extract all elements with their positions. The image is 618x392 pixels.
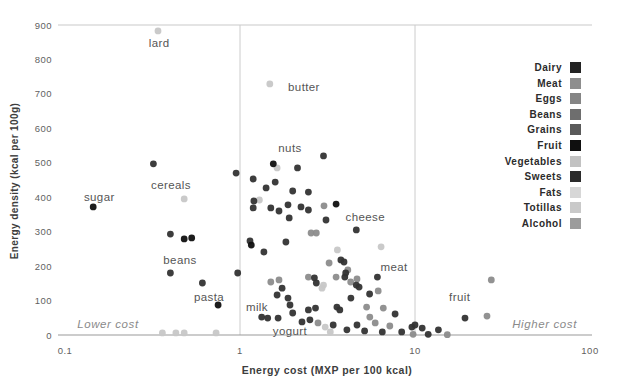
- data-point: [283, 239, 290, 246]
- data-point: [285, 201, 292, 208]
- data-point: [484, 313, 491, 320]
- data-point: [275, 315, 282, 322]
- legend-item-fats: Fats: [505, 187, 581, 198]
- data-point: [305, 274, 312, 281]
- legend-swatch: [570, 187, 581, 198]
- legend-swatch: [570, 78, 581, 89]
- data-point: [305, 307, 312, 314]
- legend-item-totillas: Totillas: [505, 202, 581, 213]
- data-point: [333, 201, 340, 208]
- legend-label: Grains: [527, 124, 562, 135]
- point-annotation: meat: [381, 261, 409, 273]
- data-point: [313, 230, 320, 237]
- point-annotation: yogurt: [273, 325, 308, 337]
- y-tick-label: 900: [35, 20, 52, 31]
- legend-item-eggs: Eggs: [505, 93, 581, 104]
- data-point: [285, 295, 292, 302]
- legend-item-grains: Grains: [505, 124, 581, 135]
- legend-label: Meat: [537, 78, 562, 89]
- data-point: [305, 189, 312, 196]
- legend-swatch: [570, 218, 581, 229]
- point-annotation: cereals: [151, 179, 191, 191]
- data-point: [213, 330, 220, 337]
- legend-item-vegetables: Vegetables: [505, 156, 581, 167]
- y-tick-label: 100: [35, 295, 52, 306]
- data-point: [348, 295, 355, 302]
- data-point: [267, 205, 274, 212]
- legend-swatch: [570, 93, 581, 104]
- data-point: [199, 280, 206, 287]
- y-tick-label: 0: [46, 330, 52, 341]
- data-point: [356, 284, 363, 291]
- data-point: [375, 288, 382, 295]
- point-annotation: butter: [288, 81, 320, 93]
- data-point: [374, 274, 381, 281]
- legend-item-dairy: Dairy: [505, 62, 581, 73]
- legend-swatch: [570, 171, 581, 182]
- data-point: [330, 322, 337, 329]
- data-point: [234, 270, 241, 277]
- zone-label: Higher cost: [512, 318, 577, 330]
- y-tick-label: 400: [35, 192, 52, 203]
- legend-swatch: [570, 62, 581, 73]
- y-tick-label: 200: [35, 261, 52, 272]
- point-annotation: pasta: [194, 291, 224, 303]
- data-point: [425, 331, 432, 338]
- data-point: [181, 236, 188, 243]
- data-point: [311, 274, 318, 281]
- data-point: [261, 249, 268, 256]
- data-point: [378, 243, 385, 250]
- data-point: [444, 331, 451, 338]
- point-annotation: cheese: [346, 211, 385, 223]
- legend-swatch: [570, 109, 581, 120]
- y-tick-label: 500: [35, 157, 52, 168]
- legend-label: Beans: [529, 109, 562, 120]
- data-point: [380, 305, 387, 312]
- legend-label: Totillas: [524, 202, 562, 213]
- data-point: [263, 185, 270, 192]
- data-point: [366, 314, 373, 321]
- legend-label: Dairy: [534, 62, 562, 73]
- legend: Dairy Meat Eggs Beans Grains Fruit Veget…: [505, 62, 581, 234]
- point-annotation: milk: [246, 301, 268, 313]
- data-point: [289, 310, 296, 317]
- zone-label: Lower cost: [77, 318, 139, 330]
- x-axis-title: Energy cost (MXP per 100 kcal): [242, 364, 413, 376]
- data-point: [320, 153, 327, 160]
- data-point: [289, 188, 296, 195]
- legend-label: Eggs: [536, 93, 562, 104]
- data-point: [323, 217, 330, 224]
- data-point: [386, 323, 393, 330]
- data-point: [305, 207, 312, 214]
- x-tick-label: 10: [409, 345, 421, 356]
- data-point: [372, 320, 379, 327]
- data-point: [353, 227, 360, 234]
- data-point: [267, 279, 274, 286]
- data-point: [341, 274, 348, 281]
- data-point: [361, 328, 368, 335]
- data-point: [248, 242, 255, 249]
- data-point: [327, 329, 334, 336]
- data-point: [250, 205, 257, 212]
- data-point: [181, 196, 188, 203]
- data-point: [298, 204, 305, 211]
- data-point: [333, 274, 340, 281]
- data-point: [173, 330, 180, 337]
- y-tick-label: 800: [35, 54, 52, 65]
- data-point: [410, 331, 417, 338]
- point-annotation: fruit: [449, 291, 471, 303]
- data-point: [287, 302, 294, 309]
- data-point: [276, 277, 283, 284]
- data-point: [150, 160, 157, 167]
- data-point: [272, 179, 279, 186]
- data-point: [363, 304, 370, 311]
- data-point: [159, 330, 166, 337]
- data-point: [264, 315, 271, 322]
- data-point: [344, 326, 351, 333]
- data-point: [188, 235, 195, 242]
- point-annotation: lard: [149, 37, 170, 49]
- data-point: [334, 247, 341, 254]
- data-point: [155, 28, 162, 35]
- data-point: [90, 204, 97, 211]
- y-axis-title: Energy density (kcal per 100g): [9, 103, 20, 260]
